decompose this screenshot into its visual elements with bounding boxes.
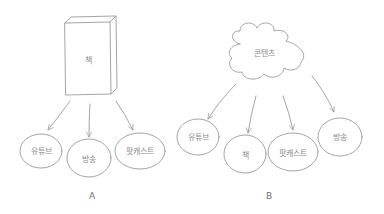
node-label: 팟캐스트: [126, 146, 154, 156]
book-label: 책: [85, 55, 92, 65]
caption-b: B: [266, 191, 272, 201]
node-a-youtube: 유튜브: [20, 134, 62, 168]
panel-b: 콘텐츠 유튜브 책 팟캐스트 방송 B: [177, 23, 362, 201]
node-b-broadcast: 방송: [318, 118, 362, 156]
book-node: 책: [65, 16, 117, 95]
caption-a: A: [89, 191, 96, 201]
node-b-youtube: 유튜브: [177, 119, 219, 155]
cloud-label: 콘텐츠: [254, 48, 275, 58]
book-side-face: [111, 16, 117, 94]
arrow-b-youtube: [208, 84, 236, 119]
arrow-a-podcast: [116, 101, 133, 130]
cloud-node: 콘텐츠: [229, 23, 304, 79]
node-a-podcast: 팟캐스트: [115, 133, 165, 169]
node-label: 방송: [333, 132, 347, 142]
arrow-a-youtube: [48, 101, 70, 130]
diagram-canvas: 책 유튜브 방송 팟캐스트 A 콘텐츠: [0, 0, 384, 214]
node-b-podcast: 팟캐스트: [268, 133, 318, 171]
node-label: 유튜브: [31, 147, 52, 156]
arrow-b-broadcast: [312, 76, 334, 112]
node-a-broadcast: 방송: [67, 139, 111, 177]
panel-a: 책 유튜브 방송 팟캐스트 A: [20, 16, 165, 201]
arrow-b-podcast: [283, 96, 293, 130]
arrow-b-book: [248, 96, 256, 133]
node-label: 유튜브: [188, 133, 209, 142]
node-label: 방송: [82, 154, 96, 164]
node-label: 책: [242, 150, 249, 160]
arrow-a-broadcast: [89, 104, 90, 137]
node-b-book: 책: [224, 135, 266, 173]
node-label: 팟캐스트: [279, 148, 307, 158]
